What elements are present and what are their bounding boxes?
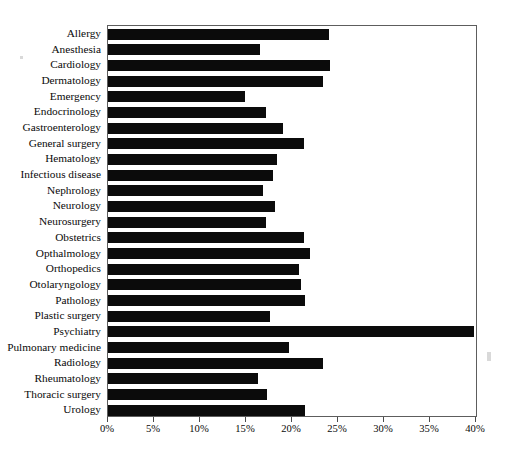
category-label: Cardiology bbox=[0, 58, 101, 70]
bar bbox=[108, 201, 275, 212]
bar bbox=[108, 232, 304, 243]
page-speck bbox=[20, 56, 23, 59]
bar bbox=[108, 185, 263, 196]
x-tick-label: 30% bbox=[363, 422, 403, 435]
bar bbox=[108, 311, 270, 322]
bar bbox=[108, 154, 277, 165]
bar bbox=[108, 91, 245, 102]
category-label: Obstetrics bbox=[0, 231, 101, 243]
x-tick-label: 5% bbox=[133, 422, 173, 435]
category-label: Otolaryngology bbox=[0, 278, 101, 290]
x-tick-label: 10% bbox=[179, 422, 219, 435]
category-label: Psychiatry bbox=[0, 325, 101, 337]
category-label: Plastic surgery bbox=[0, 309, 101, 321]
x-axis: 0%5%10%15%20%25%30%35%40% bbox=[107, 417, 477, 447]
category-label: Hematology bbox=[0, 152, 101, 164]
category-label: Pathology bbox=[0, 294, 101, 306]
category-label: Emergency bbox=[0, 90, 101, 102]
x-tick-label: 40% bbox=[455, 422, 495, 435]
bar bbox=[108, 405, 305, 416]
category-label: Nephrology bbox=[0, 184, 101, 196]
category-label: Endocrinology bbox=[0, 105, 101, 117]
category-label: Opthalmology bbox=[0, 247, 101, 259]
category-label: Gastroenterology bbox=[0, 121, 101, 133]
plot-area bbox=[107, 25, 477, 417]
category-label: Rheumatology bbox=[0, 372, 101, 384]
bar bbox=[108, 29, 329, 40]
category-label: Neurosurgery bbox=[0, 215, 101, 227]
x-tick-label: 20% bbox=[271, 422, 311, 435]
bar bbox=[108, 264, 299, 275]
category-label: Thoracic surgery bbox=[0, 388, 101, 400]
bar bbox=[108, 123, 283, 134]
bar bbox=[108, 279, 301, 290]
x-tick-label: 15% bbox=[225, 422, 265, 435]
category-label: Orthopedics bbox=[0, 262, 101, 274]
horizontal-bar-chart: AllergyAnesthesiaCardiologyDermatologyEm… bbox=[0, 0, 507, 458]
bar bbox=[108, 217, 266, 228]
category-label: Neurology bbox=[0, 199, 101, 211]
x-tick-label: 0% bbox=[87, 422, 127, 435]
category-label: Dermatology bbox=[0, 74, 101, 86]
bar bbox=[108, 138, 304, 149]
bar bbox=[108, 248, 310, 259]
bar bbox=[108, 295, 305, 306]
bar bbox=[108, 358, 323, 369]
category-label: General surgery bbox=[0, 137, 101, 149]
bar bbox=[108, 107, 266, 118]
category-label: Urology bbox=[0, 403, 101, 415]
category-axis: AllergyAnesthesiaCardiologyDermatologyEm… bbox=[0, 25, 105, 417]
bar bbox=[108, 76, 323, 87]
x-tick-label: 25% bbox=[317, 422, 357, 435]
category-label: Anesthesia bbox=[0, 43, 101, 55]
bar bbox=[108, 373, 258, 384]
bar bbox=[108, 326, 474, 337]
bar bbox=[108, 389, 267, 400]
x-tick-label: 35% bbox=[409, 422, 449, 435]
category-label: Allergy bbox=[0, 27, 101, 39]
bar bbox=[108, 44, 260, 55]
bar bbox=[108, 60, 330, 71]
page-speck bbox=[487, 352, 491, 361]
category-label: Radiology bbox=[0, 356, 101, 368]
bar bbox=[108, 170, 273, 181]
category-label: Infectious disease bbox=[0, 168, 101, 180]
bar bbox=[108, 342, 289, 353]
category-label: Pulmonary medicine bbox=[0, 341, 101, 353]
